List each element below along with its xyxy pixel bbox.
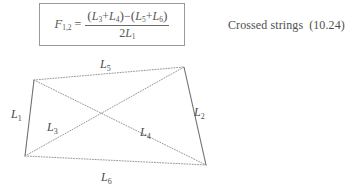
figure-caption: Crossed strings(10.24): [228, 18, 345, 33]
equals-sign: =: [75, 17, 82, 32]
numerator-plus-2: +: [146, 9, 153, 23]
numerator-close-paren-2: ): [163, 8, 168, 23]
numerator-term-3-symbol: L: [135, 9, 142, 23]
length-label-l4-sub: 4: [147, 132, 151, 141]
fraction-denominator: 2L1: [119, 26, 135, 41]
numerator-term-4: L6: [153, 9, 163, 23]
segment-l3: [34, 80, 206, 165]
length-label-l6-sub: 6: [108, 177, 112, 184]
segment-group: [25, 67, 206, 165]
numerator-term-1-symbol: L: [92, 9, 99, 23]
numerator-term-1: L3: [92, 9, 102, 23]
length-label-l4: L4: [139, 125, 151, 141]
formula-content: F1,2 = (L3+L4)−(L5+L6) 2L1: [40, 4, 184, 45]
denominator-symbol: L: [125, 26, 132, 40]
numerator-term-3: L5: [135, 9, 145, 23]
diagram-svg: L1L3L4L2L5L6: [0, 48, 362, 184]
formula-lhs-subscript: 1,2: [62, 23, 71, 32]
length-label-l2-sub: 2: [201, 112, 205, 121]
numerator-minus: −: [124, 9, 131, 23]
length-label-l3: L3: [46, 120, 58, 136]
fraction-numerator: (L3+L4)−(L5+L6): [85, 9, 169, 25]
length-label-l5-sub: 5: [107, 64, 111, 73]
length-label-l1-sub: 1: [18, 114, 22, 123]
formula-box: F1,2 = (L3+L4)−(L5+L6) 2L1: [39, 3, 185, 46]
denominator-term: L1: [125, 26, 135, 40]
caption-text: Crossed strings: [228, 18, 303, 32]
denominator-sub: 1: [132, 32, 136, 41]
fraction: (L3+L4)−(L5+L6) 2L1: [85, 9, 169, 41]
label-group: L1L3L4L2L5L6: [10, 57, 205, 184]
length-label-l3-sub: 3: [54, 127, 58, 136]
numerator-term-2-symbol: L: [109, 9, 116, 23]
segment-l6: [25, 156, 206, 165]
length-label-l1: L1: [10, 107, 22, 123]
length-label-l5: L5: [99, 57, 111, 73]
crossed-strings-diagram: L1L3L4L2L5L6: [0, 48, 362, 184]
equation: F1,2 = (L3+L4)−(L5+L6) 2L1: [55, 9, 170, 41]
length-label-l6: L6: [100, 170, 112, 184]
numerator-term-2: L4: [109, 9, 119, 23]
equation-number: (10.24): [309, 18, 345, 32]
length-label-l2: L2: [193, 105, 205, 121]
formula-lhs: F1,2: [55, 17, 72, 32]
segment-l1: [25, 80, 34, 156]
